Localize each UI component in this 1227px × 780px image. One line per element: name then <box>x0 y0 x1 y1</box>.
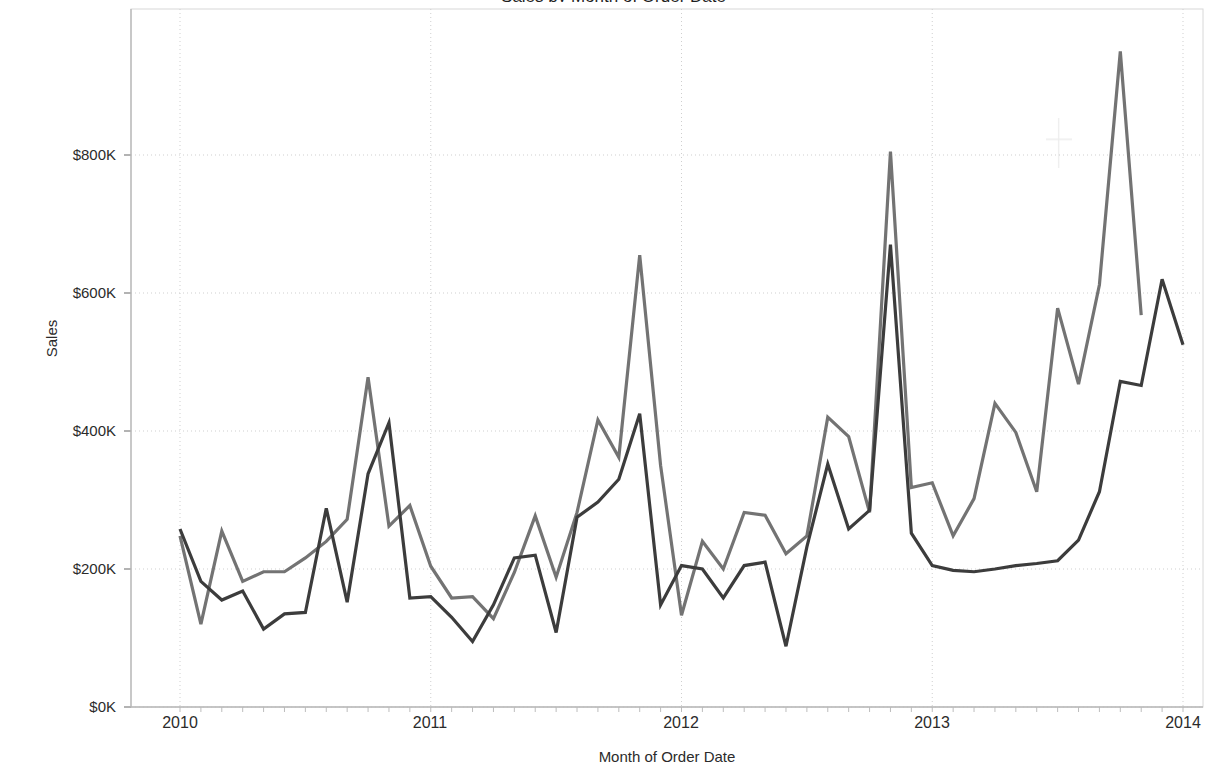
gridlines <box>131 9 1203 707</box>
plot-border <box>131 9 1203 707</box>
axis-lines <box>131 9 1203 707</box>
plot-area <box>0 0 1227 780</box>
axis-tick-marks <box>124 155 1183 712</box>
series-line-1 <box>180 52 1141 625</box>
line-chart: Sales by Month of Order Date Sales Month… <box>0 0 1227 780</box>
